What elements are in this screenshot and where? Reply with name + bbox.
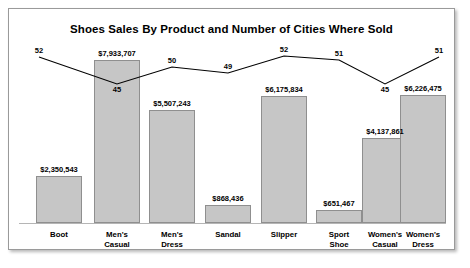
line-value-womens-dress: 51 [422, 46, 456, 55]
bar-value-mens-casual: $7,933,707 [84, 49, 150, 58]
category-label-sandal: Sandal [200, 230, 256, 240]
line-value-sport-shoe: 51 [322, 49, 356, 58]
line-value-womens-casual: 45 [368, 85, 402, 94]
bar-mens-dress[interactable] [149, 110, 195, 223]
category-label-mens-dress: Men's Dress [144, 230, 200, 249]
bar-boot[interactable] [36, 176, 82, 223]
bar-womens-dress[interactable] [400, 95, 446, 223]
bar-value-boot: $2,350,543 [26, 165, 92, 174]
bar-value-mens-dress: $5,507,243 [139, 99, 205, 108]
line-value-slipper: 52 [267, 45, 301, 54]
category-label-slipper: Slipper [256, 230, 312, 240]
category-label-boot: Boot [31, 230, 87, 240]
bar-sandal[interactable] [205, 205, 251, 223]
bar-slipper[interactable] [261, 96, 307, 223]
bar-value-womens-casual: $4,137,861 [352, 127, 418, 136]
line-value-mens-casual: 45 [100, 85, 134, 94]
category-label-mens-casual: Men's Casual [89, 230, 145, 249]
bar-sport-shoe[interactable] [316, 210, 362, 223]
plot-area: $2,350,543 $7,933,707 $5,507,243 $868,43… [9, 9, 454, 249]
bar-value-sandal: $868,436 [195, 194, 261, 203]
axis-baseline [19, 223, 446, 224]
category-label-womens-dress: Women's Dress [395, 230, 451, 249]
line-value-boot: 52 [22, 46, 56, 55]
chart-frame: Shoes Sales By Product and Number of Cit… [8, 8, 455, 250]
line-value-sandal: 49 [211, 62, 245, 71]
line-value-mens-dress: 50 [155, 56, 189, 65]
bar-value-slipper: $6,175,834 [251, 85, 317, 94]
bar-value-sport-shoe: $651,467 [306, 199, 372, 208]
